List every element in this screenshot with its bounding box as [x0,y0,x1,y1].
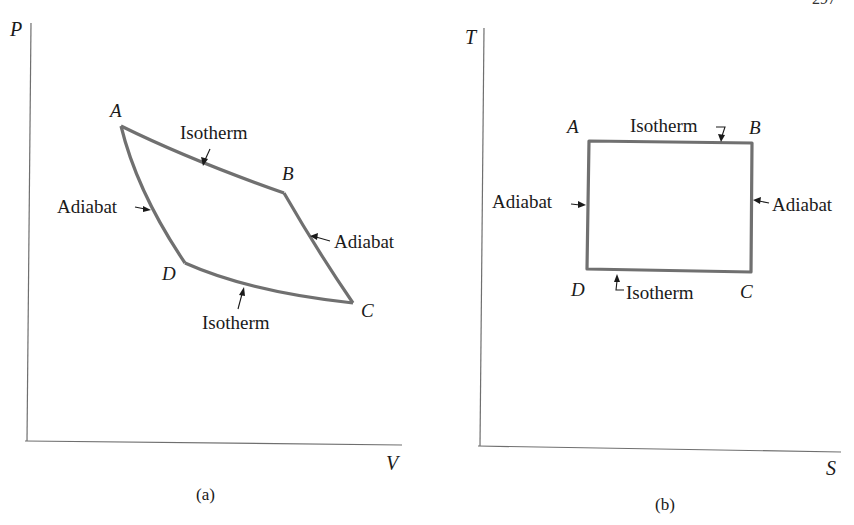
isotherm-top-label: Isotherm [630,115,698,136]
point-a-label: A [108,100,122,121]
t-axis-label: T [465,26,478,48]
adiabat-left-label: Adiabat [492,191,553,212]
isotherm-bottom-arrow-icon [614,274,624,290]
panel-a-caption: (a) [196,485,215,504]
v-axis-label: V [386,452,401,474]
s-axis-label: S [826,457,836,479]
p-axis-label: P [9,18,22,40]
isotherm-top-arrow-icon [716,127,725,142]
panel-a-pv-diagram: P V A B C D Isotherm Adiabat Adiabat [9,18,402,504]
point-d-label: D [570,279,585,300]
isotherm-top-label: Isotherm [180,122,248,143]
panel-b-caption: (b) [655,495,675,514]
carnot-cycle-figure: 297 P V A B C D Isotherm Adiabat [0,0,854,525]
isotherm-bottom-arrow-icon [238,287,245,309]
point-c-label: C [361,300,374,321]
isotherm-cd-curve [185,263,353,303]
adiabat-da-curve [121,126,185,263]
carnot-rectangle-cycle [587,141,752,272]
t-axis [480,28,484,446]
adiabat-left-arrow-icon [571,201,586,208]
point-b-label: B [749,117,761,138]
point-c-label: C [740,281,753,302]
point-d-label: D [161,263,176,284]
point-a-label: A [565,116,579,137]
point-b-label: B [282,163,294,184]
isotherm-bottom-label: Isotherm [626,282,694,303]
adiabat-left-arrow-icon [135,206,151,212]
adiabat-right-label: Adiabat [334,231,395,252]
s-axis [478,446,841,452]
isotherm-bottom-label: Isotherm [202,312,270,333]
panel-b-ts-diagram: T S A B C D Isotherm Adiabat Adiabat Iso… [465,26,841,514]
v-axis [25,441,402,445]
p-axis [27,23,31,441]
page-number: 297 [812,0,836,7]
adiabat-right-arrow-icon [753,197,769,204]
adiabat-left-label: Adiabat [57,196,118,217]
adiabat-right-label: Adiabat [772,194,833,215]
